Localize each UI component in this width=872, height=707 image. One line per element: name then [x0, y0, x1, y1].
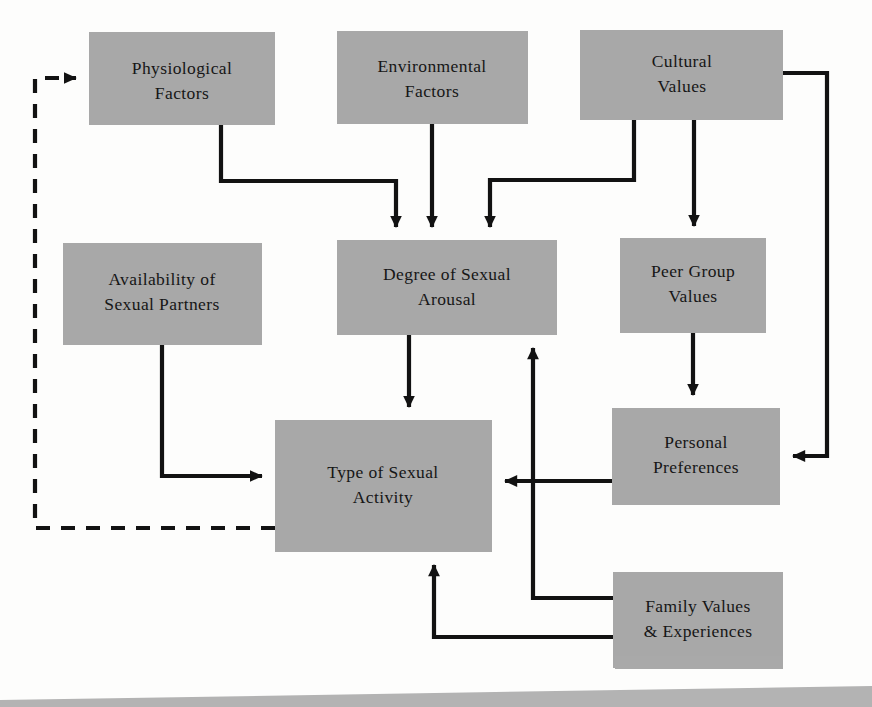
node-label-family-values-experiences-line1: Family Values [645, 596, 751, 616]
node-label-type-of-sexual-activity-line2: Activity [353, 487, 414, 507]
node-box-physiological-factors[interactable] [89, 32, 275, 125]
node-label-cultural-values-line1: Cultural [652, 51, 713, 71]
node-label-degree-of-sexual-arousal-line1: Degree of Sexual [383, 264, 511, 284]
node-label-environmental-factors-line1: Environmental [377, 56, 486, 76]
node-label-peer-group-values-line1: Peer Group [651, 261, 735, 281]
node-availability-of-sexual-partners[interactable]: Availability of Sexual Partners [63, 243, 262, 345]
node-peer-group-values[interactable]: Peer Group Values [620, 238, 766, 333]
node-label-family-values-experiences-line2: & Experiences [644, 621, 753, 641]
node-label-cultural-values-line2: Values [657, 76, 706, 96]
node-family-values-experiences[interactable]: Family Values & Experiences [613, 572, 783, 668]
node-layer: Physiological Factors Environmental Fact… [63, 30, 783, 668]
scan-page-edge [0, 656, 872, 707]
node-label-peer-group-values-line2: Values [668, 286, 717, 306]
page-edge-bottom-bar [0, 686, 872, 707]
node-label-type-of-sexual-activity-line1: Type of Sexual [327, 462, 438, 482]
node-label-environmental-factors-line2: Factors [405, 81, 459, 101]
node-box-degree-of-sexual-arousal[interactable] [337, 240, 557, 335]
page-edge-chip [615, 656, 783, 669]
node-degree-of-sexual-arousal[interactable]: Degree of Sexual Arousal [337, 240, 557, 335]
node-label-availability-of-sexual-partners-line1: Availability of [108, 269, 215, 289]
node-physiological-factors[interactable]: Physiological Factors [89, 32, 275, 125]
edge-layer [35, 73, 827, 637]
node-box-cultural-values[interactable] [580, 30, 783, 120]
figure-page: Physiological Factors Environmental Fact… [0, 0, 872, 707]
node-box-family-values-experiences[interactable] [613, 572, 783, 668]
node-cultural-values[interactable]: Cultural Values [580, 30, 783, 120]
node-label-degree-of-sexual-arousal-line2: Arousal [418, 289, 476, 309]
node-label-personal-preferences-line1: Personal [664, 432, 727, 452]
edge-family-values-to-arousal[interactable] [533, 348, 613, 598]
edge-cultural-to-arousal[interactable] [490, 120, 634, 227]
node-environmental-factors[interactable]: Environmental Factors [337, 31, 528, 124]
node-label-physiological-factors-line1: Physiological [132, 58, 232, 78]
node-label-physiological-factors-line2: Factors [155, 83, 209, 103]
edge-cultural-to-personal-preferences[interactable] [783, 73, 827, 456]
node-box-environmental-factors[interactable] [337, 31, 528, 124]
node-type-of-sexual-activity[interactable]: Type of Sexual Activity [275, 420, 492, 552]
node-personal-preferences[interactable]: Personal Preferences [612, 408, 780, 505]
edge-family-values-to-activity[interactable] [434, 565, 613, 637]
edge-physiological-to-arousal[interactable] [221, 125, 396, 227]
edge-availability-to-activity[interactable] [162, 345, 262, 476]
node-box-type-of-sexual-activity[interactable] [275, 420, 492, 552]
node-label-personal-preferences-line2: Preferences [653, 457, 739, 477]
flowchart-diagram: Physiological Factors Environmental Fact… [0, 0, 872, 707]
node-label-availability-of-sexual-partners-line2: Sexual Partners [104, 294, 219, 314]
